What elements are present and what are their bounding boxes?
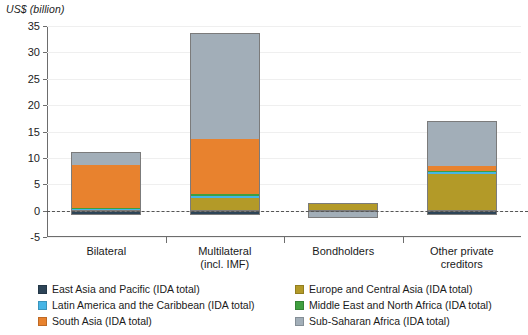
y-tick-label: 30: [28, 46, 40, 58]
bar-segment[interactable]: [71, 165, 141, 208]
y-tick-label: 15: [28, 126, 40, 138]
bar-segment[interactable]: [427, 166, 497, 171]
y-tick-label: 20: [28, 99, 40, 111]
y-tick-mark: [43, 237, 47, 238]
x-axis-label-line: Bilateral: [47, 245, 166, 258]
legend-column-right: Europe and Central Asia (IDA total)Middl…: [295, 281, 492, 329]
bar-segment[interactable]: [427, 172, 497, 174]
bar-segment[interactable]: [190, 196, 260, 198]
legend-item[interactable]: East Asia and Pacific (IDA total): [38, 281, 255, 297]
bar-segment[interactable]: [427, 174, 497, 211]
x-axis-divider: [403, 237, 404, 243]
bar-group[interactable]: [47, 26, 166, 237]
x-axis-label-line: Bondholders: [284, 245, 403, 258]
legend-item[interactable]: South Asia (IDA total): [38, 313, 255, 329]
bar-segment[interactable]: [190, 198, 260, 210]
legend-swatch-icon: [38, 285, 47, 294]
bar-segment[interactable]: [190, 33, 260, 140]
bar-segment[interactable]: [71, 152, 141, 165]
legend-item[interactable]: Sub-Saharan Africa (IDA total): [295, 313, 492, 329]
legend-item[interactable]: Europe and Central Asia (IDA total): [295, 281, 492, 297]
x-axis-label-line: creditors: [403, 258, 522, 271]
x-axis-label: Bondholders: [284, 245, 403, 258]
x-axis-divider: [166, 237, 167, 243]
y-tick-label: 10: [28, 152, 40, 164]
bar-segment[interactable]: [190, 139, 260, 194]
x-axis-label-line: (incl. IMF): [166, 258, 285, 271]
y-tick-label: 25: [28, 73, 40, 85]
y-tick-label: 5: [34, 178, 40, 190]
x-axis-labels: BilateralMultilateral(incl. IMF)Bondhold…: [47, 245, 521, 281]
legend-swatch-icon: [295, 317, 304, 326]
bar-group[interactable]: [403, 26, 522, 237]
legend-swatch-icon: [38, 301, 47, 310]
stacked-bar[interactable]: [308, 26, 378, 237]
plot-area: 35302520151050-5: [47, 26, 521, 237]
legend-item-label: East Asia and Pacific (IDA total): [52, 283, 200, 295]
legend-item-label: Middle East and North Africa (IDA total): [309, 299, 492, 311]
legend-item-label: Latin America and the Caribbean (IDA tot…: [52, 299, 255, 311]
bar-segment[interactable]: [308, 203, 378, 211]
stacked-bar[interactable]: [71, 26, 141, 237]
zero-baseline: [47, 211, 528, 212]
x-axis-label: Other privatecreditors: [403, 245, 522, 271]
bar-segment[interactable]: [427, 171, 497, 172]
x-axis-label-line: Other private: [403, 245, 522, 258]
y-tick-label: -5: [30, 231, 40, 243]
y-axis-title: US$ (billion): [6, 3, 65, 15]
legend-item[interactable]: Middle East and North Africa (IDA total): [295, 297, 492, 313]
legend-item-label: South Asia (IDA total): [52, 315, 152, 327]
x-axis-label: Bilateral: [47, 245, 166, 258]
x-axis-label: Multilateral(incl. IMF): [166, 245, 285, 271]
y-tick-label: 0: [34, 205, 40, 217]
legend-item-label: Europe and Central Asia (IDA total): [309, 283, 472, 295]
bar-segment[interactable]: [190, 194, 260, 196]
stacked-bar[interactable]: [427, 26, 497, 237]
bar-group[interactable]: [284, 26, 403, 237]
bar-segment[interactable]: [427, 121, 497, 166]
legend-swatch-icon: [295, 285, 304, 294]
legend-swatch-icon: [295, 301, 304, 310]
x-axis-label-line: Multilateral: [166, 245, 285, 258]
bar-group[interactable]: [166, 26, 285, 237]
bar-segment[interactable]: [308, 211, 378, 218]
legend-swatch-icon: [38, 317, 47, 326]
legend-column-left: East Asia and Pacific (IDA total)Latin A…: [38, 281, 255, 329]
stacked-bar[interactable]: [190, 26, 260, 237]
y-tick-label: 35: [28, 20, 40, 32]
legend-item[interactable]: Latin America and the Caribbean (IDA tot…: [38, 297, 255, 313]
x-axis-divider: [284, 237, 285, 243]
legend: East Asia and Pacific (IDA total)Latin A…: [0, 281, 528, 335]
legend-item-label: Sub-Saharan Africa (IDA total): [309, 315, 450, 327]
